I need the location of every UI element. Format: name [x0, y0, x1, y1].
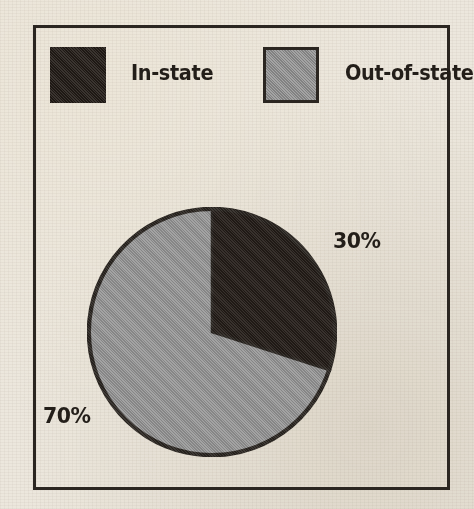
pie-value-label-out-of-state: 70% [43, 403, 91, 428]
pie-chart [87, 207, 337, 457]
pie-value-label-in-state: 30% [333, 228, 381, 253]
legend-swatch-in-state [50, 47, 106, 103]
swatch-halftone-texture [266, 50, 316, 100]
swatch-halftone-texture [50, 47, 106, 103]
legend-label-out-of-state: Out-of-state [345, 61, 473, 85]
legend-label-in-state: In-state [131, 61, 213, 85]
pie-svg [87, 207, 337, 457]
legend-swatch-out-of-state [263, 47, 319, 103]
chart-page: In-state Out-of-state 30% 70% [0, 0, 474, 509]
